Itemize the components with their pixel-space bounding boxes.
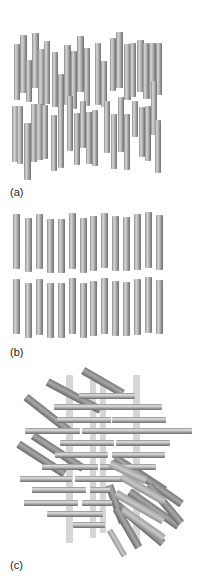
panel-c-cholesteric xyxy=(0,0,208,578)
rod-horizontal xyxy=(137,428,192,434)
rod-horizontal xyxy=(20,476,72,482)
rod-horizontal xyxy=(108,404,162,410)
rod-horizontal xyxy=(32,487,86,493)
rod-horizontal xyxy=(57,417,111,423)
rod-horizontal xyxy=(60,440,114,446)
rod-horizontal xyxy=(24,500,78,506)
rod-horizontal xyxy=(82,428,137,434)
label-c: (c) xyxy=(10,559,23,571)
rod-horizontal xyxy=(55,452,108,458)
rod-horizontal xyxy=(42,464,98,470)
rod-horizontal xyxy=(73,522,105,528)
rod-horizontal xyxy=(25,428,80,434)
rod-horizontal xyxy=(116,440,170,446)
rod-horizontal xyxy=(82,500,112,506)
rod-horizontal xyxy=(47,511,103,517)
rod-horizontal xyxy=(112,417,166,423)
rod-tilted-front xyxy=(107,529,127,558)
rod-horizontal xyxy=(79,393,135,399)
rod-horizontal xyxy=(90,487,110,493)
rod-horizontal xyxy=(54,404,108,410)
rod-horizontal xyxy=(112,452,165,458)
